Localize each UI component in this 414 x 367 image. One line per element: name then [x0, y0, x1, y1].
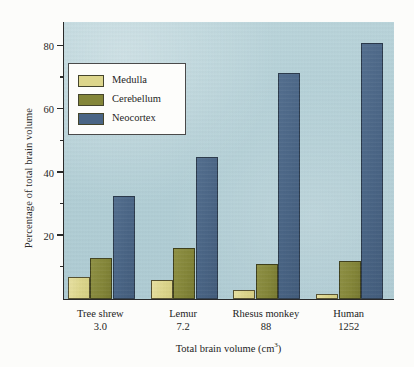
- x-axis-title-text: Total brain volume (cm: [176, 343, 275, 354]
- legend-swatch-cerebellum: [78, 94, 104, 106]
- legend-item: Cerebellum: [78, 90, 177, 109]
- x-category-name: Human: [289, 307, 409, 320]
- x-category-label: Human1252: [289, 307, 409, 333]
- bar-neocortex: [113, 196, 135, 299]
- y-tick-label: 60: [20, 105, 54, 116]
- y-tick-label: 20: [20, 232, 54, 243]
- x-axis-title-close: ): [278, 343, 282, 354]
- bar-neocortex: [278, 73, 300, 299]
- x-axis-title: Total brain volume (cm3): [63, 341, 394, 354]
- legend-label-cerebellum: Cerebellum: [112, 94, 161, 105]
- bar-medulla: [68, 277, 90, 299]
- bar-neocortex: [196, 157, 218, 299]
- chart-legend: Medulla Cerebellum Neocortex: [68, 63, 186, 135]
- bar-group: [230, 22, 313, 299]
- y-tick-major: [57, 171, 64, 172]
- bar-group: [312, 22, 395, 299]
- legend-item: Neocortex: [78, 109, 177, 128]
- legend-item: Medulla: [78, 71, 177, 90]
- legend-swatch-neocortex: [78, 113, 104, 125]
- bar-medulla: [316, 294, 338, 299]
- y-tick-major: [57, 45, 64, 46]
- brain-volume-bar-chart: Percentage of total brain volume 2040608…: [0, 0, 414, 367]
- y-tick-label: 80: [20, 42, 54, 53]
- y-tick-label: 40: [20, 169, 54, 180]
- bar-medulla: [151, 280, 173, 299]
- bar-neocortex: [361, 43, 383, 299]
- bar-cerebellum: [339, 261, 361, 299]
- legend-label-neocortex: Neocortex: [112, 113, 156, 124]
- y-tick-major: [57, 234, 64, 235]
- x-category-value: 1252: [289, 320, 409, 333]
- legend-swatch-medulla: [78, 75, 104, 87]
- bar-cerebellum: [173, 248, 195, 299]
- bar-cerebellum: [90, 258, 112, 299]
- bar-cerebellum: [256, 264, 278, 299]
- y-tick-major: [57, 108, 64, 109]
- bar-medulla: [233, 290, 255, 299]
- legend-label-medulla: Medulla: [112, 75, 147, 86]
